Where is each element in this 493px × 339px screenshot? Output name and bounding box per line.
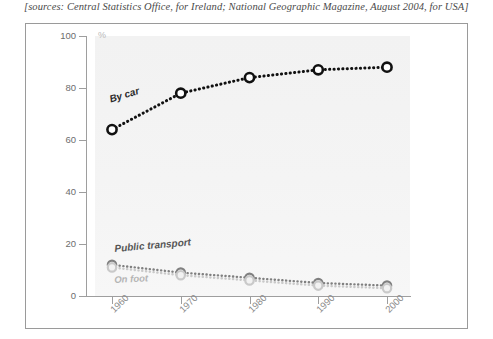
source-caption: [sources: Central Statistics Office, for… (24, 1, 474, 12)
y-tick-label: 60 (46, 134, 76, 145)
y-tick-label: 40 (46, 186, 76, 197)
y-axis-line (86, 36, 87, 297)
y-tick-mark (79, 36, 87, 37)
y-tick-mark (79, 244, 87, 245)
y-tick-mark (79, 296, 87, 297)
y-tick-label-text: 20 (48, 238, 76, 249)
y-tick-label-text: 100 (48, 30, 76, 41)
y-tick-mark (79, 140, 87, 141)
figure-root: [sources: Central Statistics Office, for… (0, 0, 493, 339)
y-tick-label-text: 80 (48, 82, 76, 93)
y-tick-label: 100 (46, 30, 76, 41)
y-tick-label: 20 (46, 238, 76, 249)
x-axis-line (86, 296, 411, 297)
y-tick-mark (79, 88, 87, 89)
y-tick-label-text: 40 (48, 186, 76, 197)
y-tick-label-text: 0 (48, 290, 76, 301)
y-tick-mark (79, 192, 87, 193)
y-tick-label: 80 (46, 82, 76, 93)
percent-unit-label: % (98, 30, 106, 40)
y-tick-label-text: 60 (48, 134, 76, 145)
y-tick-label: 0 (46, 290, 76, 301)
plot-area (95, 36, 410, 296)
series-label-on-foot: On foot (114, 272, 148, 285)
